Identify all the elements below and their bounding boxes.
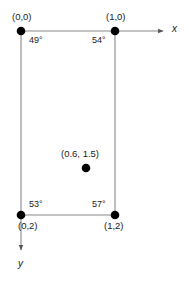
y-axis-label: y: [18, 259, 23, 269]
angle-label-top-left: 49°: [29, 35, 43, 45]
angle-label-bottom-right: 57°: [92, 199, 106, 209]
x-axis-label: x: [172, 24, 177, 34]
node-label-1-0: (1,0): [106, 12, 126, 22]
node-label-1-2: (1,2): [104, 221, 124, 231]
figure-caption: [6, 279, 182, 288]
angle-label-bottom-left: 53°: [29, 199, 43, 209]
angle-label-top-right: 54°: [92, 35, 106, 45]
node-label-0-0: (0,0): [12, 12, 32, 22]
interior-point-label: (0.6, 1.5): [61, 149, 99, 159]
node-dot-0-2: [17, 211, 26, 220]
node-dot-1-2: [111, 211, 120, 220]
node-dot-0-0: [17, 27, 26, 36]
interior-point-dot: [82, 164, 91, 173]
node-label-0-2: (0,2): [18, 221, 38, 231]
node-dot-1-0: [111, 27, 120, 36]
